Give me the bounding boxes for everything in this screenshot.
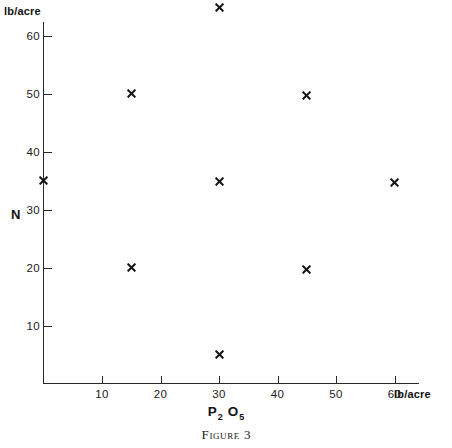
y-axis-line <box>43 22 44 384</box>
x-axis-unit-label: lb/acre <box>394 388 431 400</box>
x-tick-mark-40 <box>278 376 279 384</box>
data-point-marker <box>126 88 137 99</box>
data-point-marker <box>389 177 400 188</box>
x-tick-mark-60 <box>395 376 396 384</box>
x-axis-line <box>43 383 419 384</box>
x-axis-title-o: O <box>228 404 240 419</box>
x-axis-title: P2 O5 <box>0 404 452 422</box>
data-point-marker <box>214 176 225 187</box>
x-tick-mark-20 <box>161 376 162 384</box>
data-point-marker <box>126 262 137 273</box>
y-tick-mark-30 <box>44 210 52 211</box>
y-axis-unit-label: lb/acre <box>4 5 41 17</box>
figure-caption: Figure3 <box>0 427 452 443</box>
x-tick-label-20: 20 <box>154 388 168 400</box>
figure-caption-number: 3 <box>244 427 251 442</box>
figure-3-scatter-plot: 102030405060 102030405060 lb/acre lb/acr… <box>0 0 452 448</box>
y-tick-label-50: 50 <box>12 88 40 100</box>
x-tick-label-40: 40 <box>271 388 285 400</box>
x-tick-mark-10 <box>102 376 103 384</box>
y-tick-label-10: 10 <box>12 320 40 332</box>
y-tick-label-20: 20 <box>12 262 40 274</box>
y-axis-title: N <box>11 207 20 222</box>
y-tick-mark-40 <box>44 152 52 153</box>
x-tick-label-30: 30 <box>212 388 226 400</box>
data-point-marker <box>214 349 225 360</box>
y-tick-mark-10 <box>44 326 52 327</box>
data-point-marker <box>38 175 49 186</box>
x-axis-title-sub-5: 5 <box>239 412 244 422</box>
y-tick-mark-20 <box>44 268 52 269</box>
figure-caption-word: Figure <box>202 427 240 442</box>
x-tick-mark-50 <box>336 376 337 384</box>
y-tick-label-40: 40 <box>12 146 40 158</box>
data-point-marker <box>301 264 312 275</box>
y-tick-mark-60 <box>44 36 52 37</box>
data-point-marker <box>301 90 312 101</box>
scatter-plot-canvas: 102030405060 102030405060 lb/acre lb/acr… <box>0 0 452 448</box>
x-tick-label-10: 10 <box>95 388 109 400</box>
x-tick-label-50: 50 <box>329 388 343 400</box>
data-point-marker <box>214 2 225 13</box>
x-axis-title-p: P <box>208 404 218 419</box>
x-tick-mark-30 <box>219 376 220 384</box>
y-tick-label-60: 60 <box>12 30 40 42</box>
y-tick-mark-50 <box>44 94 52 95</box>
x-axis-title-sub-2: 2 <box>218 412 223 422</box>
